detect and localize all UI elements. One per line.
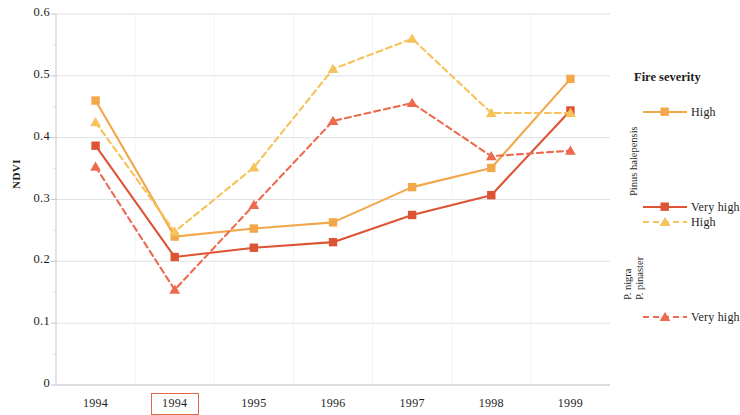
series-marker: [408, 211, 416, 219]
series-line-1: [96, 110, 571, 257]
legend-item-label: Very high: [691, 310, 740, 325]
x-axis-tick-label: 1995: [224, 396, 284, 411]
legend-group-label-line: Pinus halepensis: [628, 126, 640, 196]
legend-item[interactable]: High: [642, 213, 716, 231]
series-line-0: [96, 79, 571, 237]
legend-group-label-line: P. nigra: [622, 257, 634, 300]
legend-swatch-triangle-icon: [642, 310, 688, 324]
series-marker: [328, 64, 339, 73]
series-marker: [329, 218, 337, 226]
series-marker: [408, 183, 416, 191]
series-marker: [248, 200, 259, 209]
series-marker: [250, 224, 258, 232]
legend-swatch-square-icon: [642, 105, 688, 119]
series-marker: [407, 98, 418, 107]
x-axis-tick-label: 1998: [461, 396, 521, 411]
series-marker: [407, 34, 418, 43]
series-marker: [329, 238, 337, 246]
plot-svg: [0, 0, 620, 412]
legend-item-label: High: [691, 215, 716, 230]
legend-swatch-square-icon: [642, 200, 688, 214]
series-marker: [171, 253, 179, 261]
legend-swatch-triangle-icon: [642, 215, 688, 229]
series-line-3: [96, 103, 571, 290]
legend-group-label-line: P. pinaster: [634, 257, 646, 300]
legend-item-label: High: [691, 105, 716, 120]
x-axis-tick-label: 1999: [540, 396, 600, 411]
legend-title: Fire severity: [634, 70, 701, 85]
series-marker: [90, 162, 101, 171]
chart-legend: Fire severity Pinus halepensisHighVery h…: [612, 0, 728, 412]
x-axis-tick-label: 1994: [66, 396, 126, 411]
series-marker: [487, 191, 495, 199]
legend-item[interactable]: Very high: [642, 308, 740, 326]
series-marker: [250, 244, 258, 252]
series-marker: [90, 117, 101, 126]
series-marker: [91, 142, 99, 150]
x-axis-tick-label-highlighted[interactable]: 1994: [151, 393, 199, 415]
legend-group-label: P. nigraP. pinaster: [622, 257, 646, 300]
series-marker: [487, 164, 495, 172]
series-marker: [486, 151, 497, 160]
legend-item[interactable]: High: [642, 103, 716, 121]
series-marker: [566, 75, 574, 83]
series-marker: [91, 96, 99, 104]
x-axis-tick-label: 1996: [303, 396, 363, 411]
x-axis-tick-label: 1997: [382, 396, 442, 411]
legend-group-label: Pinus halepensis: [628, 126, 640, 196]
plot-area: NDVI 0.60.50.40.30.20.10 199419941995199…: [0, 0, 620, 412]
